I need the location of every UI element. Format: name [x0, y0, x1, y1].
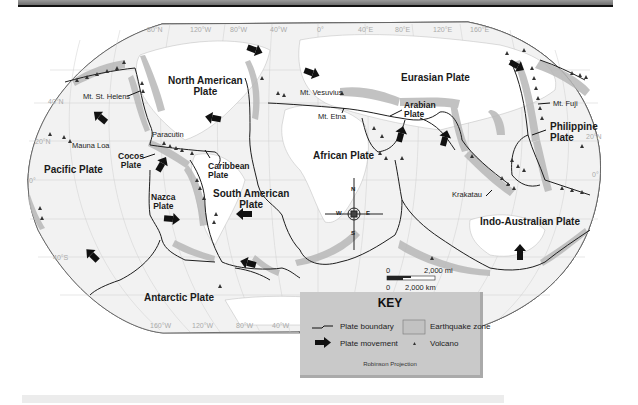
grid-label: 0° [29, 177, 36, 184]
key-plate-movement: Plate movement [340, 339, 398, 348]
label-paracutin: Paracutin [152, 130, 184, 139]
grid-label: 160°W [150, 322, 171, 329]
grid-label: 80°E [395, 26, 410, 33]
scale-bar [387, 276, 435, 280]
key-plate-boundary: Plate boundary [340, 322, 394, 331]
scale-km-label: 2,000 km [405, 283, 436, 292]
grid-label: 0° [317, 26, 324, 33]
label-indo-australian-plate: Indo-Australian Plate [480, 216, 580, 227]
grid-label: 20°N [35, 138, 51, 145]
key-projection: Robinson Projection [300, 361, 480, 367]
earthquake-zone-symbol [403, 320, 425, 334]
grid-label: 120°W [192, 322, 213, 329]
label-arabian-plate: ArabianPlate [404, 101, 436, 119]
scale-zero-km: 0 [386, 283, 390, 292]
label-cocos-plate: CocosPlate [118, 152, 144, 170]
compass-s: S [351, 230, 355, 236]
grid-label: 80°N [147, 26, 163, 33]
label-mt-st-helens: Mt. St. Helens [83, 92, 130, 101]
label-mt-fuji: Mt. Fuji [553, 99, 578, 108]
grid-label: 80°W [230, 26, 247, 33]
label-mt-vesuvius: Mt. Vesuvius [300, 88, 343, 97]
compass-w: W [336, 210, 342, 216]
plate-boundary-symbol [312, 326, 333, 328]
compass-n: N [351, 186, 355, 192]
label-pacific-plate: Pacific Plate [44, 164, 103, 175]
grid-label: 40°S [53, 254, 68, 261]
grid-label: 80°W [236, 322, 253, 329]
label-north-american-plate: North AmericanPlate [168, 75, 243, 97]
grid-label: 40°W [270, 26, 287, 33]
key-volcano: Volcano [430, 339, 458, 348]
grid-label: 0° [592, 171, 599, 178]
label-krakatau: Krakatau [452, 190, 482, 199]
key-earthquake-zone: Earthquake zone [430, 322, 491, 331]
grid-label: 40°W [272, 322, 289, 329]
scale-zero-mi: 0 [386, 266, 390, 275]
map-key: KEY Plate boundary Plate movement Earthq… [300, 292, 483, 378]
grid-label: 120°E [433, 26, 452, 33]
compass-e: E [366, 210, 370, 216]
grid-label: 120°W [190, 26, 211, 33]
label-nazca-plate: NazcaPlate [151, 193, 176, 211]
grid-label: 40°E [358, 26, 373, 33]
label-caribbean-plate: CaribbeanPlate [208, 162, 250, 180]
plate-movement-symbol [315, 337, 331, 348]
footer-bar [22, 395, 504, 403]
label-eurasian-plate: Eurasian Plate [401, 72, 470, 83]
label-african-plate: African Plate [313, 150, 374, 161]
scale-mi-label: 2,000 mi [424, 266, 453, 275]
label-mt-etna: Mt. Etna [318, 112, 346, 121]
grid-label: 160°E [470, 26, 489, 33]
label-antarctic-plate: Antarctic Plate [144, 292, 214, 303]
label-south-american-plate: South AmericanPlate [213, 188, 289, 210]
label-philippine-plate: PhilippinePlate [550, 121, 598, 143]
label-mauna-loa: Mauna Loa [72, 141, 110, 150]
volcano-symbol [413, 342, 416, 345]
grid-label: 40°N [48, 98, 64, 105]
